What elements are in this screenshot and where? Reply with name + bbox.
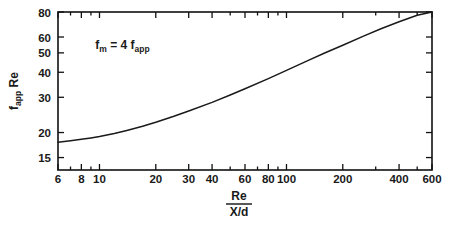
annot-sub-app: app	[135, 44, 150, 54]
y-tick-label: 60	[38, 32, 51, 44]
x-tick-label: 100	[277, 173, 296, 185]
x-title-denominator: X/d	[230, 205, 249, 219]
annot-eq: = 4 f	[107, 38, 136, 52]
x-tick-label: 40	[206, 173, 219, 185]
y-tick-label: 15	[38, 152, 51, 164]
x-title-numerator: Re	[231, 189, 247, 203]
x-tick-label: 400	[389, 173, 408, 185]
x-tick-label: 10	[93, 173, 106, 185]
y-tick-label: 30	[38, 92, 51, 104]
y-title-sub-app: app	[13, 91, 23, 106]
x-tick-label: 20	[149, 173, 162, 185]
x-tick-label: 60	[239, 173, 252, 185]
x-tick-label: 8	[78, 173, 85, 185]
y-tick-label: 20	[38, 127, 51, 139]
y-tick-label: 80	[38, 7, 51, 19]
y-tick-label: 40	[38, 67, 51, 79]
loglog-chart: 68102030406080100200400600 1520304050608…	[0, 0, 461, 226]
chart-figure: 68102030406080100200400600 1520304050608…	[0, 0, 461, 226]
x-tick-label: 6	[55, 173, 61, 185]
y-tick-label: 50	[38, 47, 51, 59]
x-tick-label: 80	[262, 173, 275, 185]
y-title-re: Re	[7, 72, 21, 91]
x-tick-label: 30	[182, 173, 195, 185]
x-tick-label: 600	[422, 173, 441, 185]
x-tick-label: 200	[333, 173, 352, 185]
